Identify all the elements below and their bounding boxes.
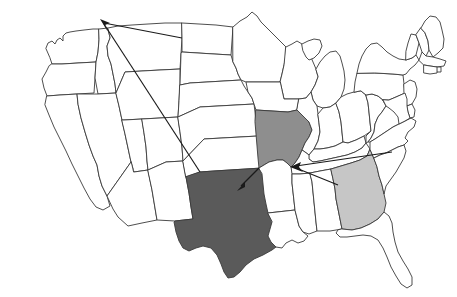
us-flow-map — [0, 0, 457, 297]
state-WA — [46, 29, 99, 64]
state-CT — [424, 65, 437, 74]
state-WY — [116, 69, 180, 120]
us-map-svg — [0, 0, 457, 297]
state-outlines — [42, 12, 446, 288]
state-RI — [437, 67, 441, 72]
state-OR — [42, 62, 96, 96]
state-MN — [233, 12, 286, 82]
state-ND — [182, 23, 233, 55]
state-SD — [180, 52, 241, 85]
